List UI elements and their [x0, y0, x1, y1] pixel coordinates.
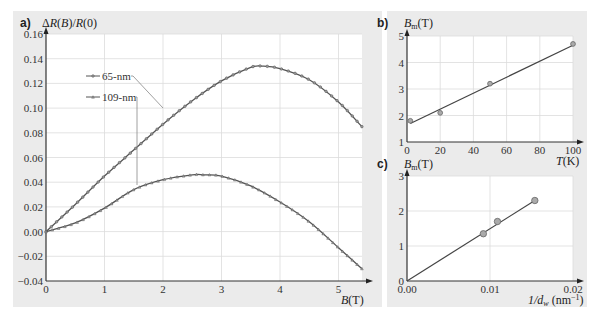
data-point [438, 110, 443, 115]
x-tick-label: 4 [277, 283, 283, 295]
y-tick-label: 0 [399, 275, 405, 287]
data-marker [140, 142, 143, 145]
x-tick-label: 3 [219, 283, 225, 295]
y-tick-label: 0.14 [24, 53, 44, 65]
data-marker [325, 90, 328, 93]
legend-label-109nm: 109-nm [102, 91, 137, 103]
data-point [494, 218, 500, 224]
data-marker [341, 104, 344, 107]
y-tick-label: 0.04 [24, 176, 44, 188]
panel-letter-a: a) [20, 16, 31, 30]
legend-marker-65nm [92, 75, 95, 78]
panel-b: 02040608010012345 [399, 29, 585, 156]
data-marker [232, 74, 235, 77]
y-tick-label: −0.02 [18, 250, 43, 262]
data-marker [118, 161, 121, 164]
data-marker [134, 147, 137, 150]
data-marker [238, 71, 241, 74]
data-marker [259, 65, 262, 68]
data-marker [225, 77, 228, 80]
data-marker [81, 196, 84, 199]
x-tick-label: 0 [404, 144, 410, 156]
x-tick-label: 0.01 [480, 283, 499, 295]
y-tick-label: 0.10 [24, 102, 44, 114]
data-point [408, 118, 413, 123]
data-marker [50, 225, 53, 228]
data-marker [294, 72, 297, 75]
data-point [480, 231, 486, 237]
data-marker [300, 75, 303, 78]
data-marker [87, 191, 90, 194]
data-marker [319, 86, 322, 89]
data-marker [346, 109, 349, 112]
data-marker [330, 95, 333, 98]
data-marker [307, 78, 310, 81]
data-marker [356, 120, 359, 123]
data-marker [102, 176, 105, 179]
x-tick-label: 2 [160, 283, 166, 295]
x-tick-label: 1 [102, 283, 108, 295]
data-marker [351, 115, 354, 118]
x-tick-label: 80 [534, 144, 546, 156]
y-tick-label: 3 [399, 170, 405, 182]
data-marker [113, 166, 116, 169]
data-marker [167, 119, 170, 122]
data-marker [266, 65, 269, 68]
data-marker [172, 114, 175, 117]
data-marker [71, 206, 74, 209]
x-tick-label: 60 [501, 144, 513, 156]
x-tick-label: 0 [43, 283, 49, 295]
y-axis-arrow-icon [405, 29, 410, 36]
data-marker [92, 186, 95, 189]
y-tick-label: 4 [399, 57, 405, 69]
data-marker [336, 99, 339, 102]
data-marker [150, 133, 153, 136]
y-tick-label: 2 [399, 110, 405, 122]
data-marker [280, 68, 283, 71]
data-marker [107, 171, 110, 174]
y-tick-label: −0.04 [18, 275, 44, 287]
y-tick-label: 0.06 [24, 152, 44, 164]
data-marker [76, 201, 79, 204]
data-marker [273, 66, 276, 69]
data-marker [145, 137, 148, 140]
data-marker [213, 84, 216, 87]
data-marker [207, 88, 210, 91]
data-marker [178, 109, 181, 112]
data-marker [313, 82, 316, 85]
panel-letter-c: c) [377, 157, 388, 171]
data-marker [61, 216, 64, 219]
y-tick-label: 0.08 [24, 127, 44, 139]
data-marker [161, 123, 164, 126]
data-point [532, 197, 538, 203]
y-tick-label: 1 [399, 136, 405, 148]
data-marker [219, 80, 222, 83]
data-marker [361, 125, 364, 128]
data-marker [97, 181, 100, 184]
y-tick-label: 3 [399, 83, 405, 95]
y-tick-label: 5 [399, 30, 405, 42]
data-marker [195, 96, 198, 99]
panel-c: 0.000.010.020123 [397, 169, 584, 295]
data-marker [189, 101, 192, 104]
data-marker [245, 68, 248, 71]
data-marker [124, 157, 127, 160]
x-axis-arrow-icon [366, 279, 373, 284]
x-axis-label-a: B(T) [341, 293, 364, 307]
x-axis-label-c: 1/dw (nm−1) [528, 293, 584, 308]
data-marker [252, 65, 255, 68]
y-axis-label-b: Bm(T) [404, 16, 433, 31]
data-marker [129, 152, 132, 155]
data-marker [66, 211, 69, 214]
legend-label-65nm: 65-nm [102, 70, 131, 82]
data-point [571, 42, 576, 47]
data-marker [55, 221, 58, 224]
panel-a: 012345−0.04−0.020.000.020.040.060.080.10… [18, 27, 373, 295]
figure: 012345−0.04−0.020.000.020.040.060.080.10… [0, 0, 592, 317]
data-point [488, 81, 493, 86]
x-tick-label: 40 [468, 144, 480, 156]
y-tick-label: 0.02 [24, 201, 43, 213]
y-tick-label: 2 [399, 205, 405, 217]
x-axis-label-b: T(K) [556, 154, 579, 168]
y-axis-label-a: ΔR(B)/R(0) [42, 16, 97, 30]
